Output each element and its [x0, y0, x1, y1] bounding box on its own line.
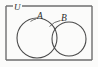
set-a-label: A [36, 11, 43, 21]
universal-set-frame [6, 6, 92, 60]
venn-diagram-canvas: U A B [0, 0, 98, 67]
set-b-label: B [61, 13, 67, 23]
venn-diagram: U A B [0, 0, 98, 67]
universal-set-label: U [14, 2, 21, 12]
set-a-circle [17, 18, 57, 58]
